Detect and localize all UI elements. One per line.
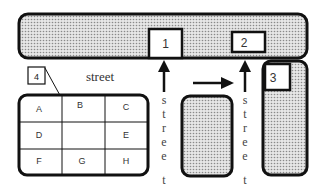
- svg-text:e: e: [161, 149, 166, 163]
- grid-cell-f: F: [36, 156, 42, 166]
- grid-block: A B C D E F G H: [19, 95, 148, 175]
- marker-4-label: 4: [34, 72, 39, 82]
- right-arrow-icon: [193, 77, 234, 89]
- svg-text:t: t: [162, 107, 166, 121]
- marker-1-label: 1: [162, 37, 169, 51]
- street-label-vertical-right: s t r e e t: [242, 93, 247, 187]
- marker-3: 3: [265, 64, 290, 90]
- svg-text:A: A: [36, 104, 42, 114]
- grid-cell-g: G: [78, 156, 85, 166]
- grid-cell-b: B: [77, 100, 83, 110]
- svg-text:D: D: [36, 130, 43, 140]
- up-arrow-to-1-icon: [158, 60, 170, 92]
- svg-text:s: s: [162, 93, 167, 107]
- marker-2: 2: [232, 32, 265, 52]
- marker-3-label: 3: [270, 71, 277, 85]
- marker-1: 1: [149, 29, 182, 58]
- svg-text:t: t: [243, 107, 247, 121]
- svg-text:C: C: [123, 102, 130, 112]
- street-label-vertical-left: s t r e e t: [161, 93, 166, 187]
- marker-2-label: 2: [241, 36, 248, 50]
- svg-text:t: t: [243, 173, 247, 187]
- middle-block: [182, 96, 232, 176]
- svg-text:H: H: [123, 156, 130, 166]
- svg-text:G: G: [78, 156, 85, 166]
- svg-text:e: e: [242, 135, 247, 149]
- svg-text:e: e: [242, 149, 247, 163]
- street-label-horizontal: street: [86, 69, 115, 84]
- svg-text:e: e: [161, 135, 166, 149]
- grid-cell-h: H: [123, 156, 130, 166]
- grid-cell-a: A: [36, 104, 42, 114]
- grid-cell-d: D: [36, 130, 43, 140]
- svg-text:r: r: [243, 121, 247, 135]
- svg-text:r: r: [162, 121, 166, 135]
- grid-cell-e: E: [123, 130, 129, 140]
- svg-text:s: s: [243, 93, 248, 107]
- up-arrow-to-2-icon: [239, 60, 251, 92]
- grid-cell-c: C: [123, 102, 130, 112]
- street-diagram: 1 2 3 4 street A B C D E F G H: [0, 0, 324, 193]
- svg-text:t: t: [162, 173, 166, 187]
- svg-text:B: B: [77, 100, 83, 110]
- svg-text:E: E: [123, 130, 129, 140]
- svg-text:F: F: [36, 156, 42, 166]
